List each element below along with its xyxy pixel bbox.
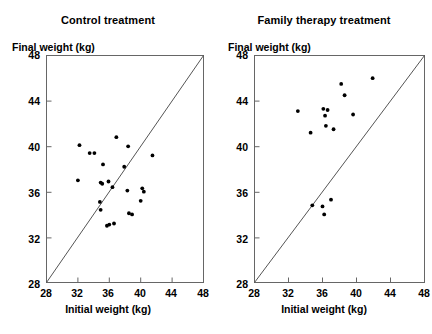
data-point xyxy=(142,190,146,194)
data-point xyxy=(322,213,326,217)
data-point xyxy=(126,144,130,148)
data-point xyxy=(107,180,111,184)
control-plot-area xyxy=(0,0,216,334)
family-plot-area xyxy=(216,0,432,334)
data-point xyxy=(296,109,300,113)
data-point xyxy=(139,199,143,203)
data-point xyxy=(326,108,330,112)
data-point xyxy=(107,223,111,227)
data-point xyxy=(78,143,82,147)
family-data-points xyxy=(296,76,375,216)
data-point xyxy=(329,198,333,202)
scatter-plot-figure: Control treatment Final weight (kg) Init… xyxy=(0,0,432,334)
data-point xyxy=(100,182,104,186)
family-identity-line xyxy=(255,56,425,283)
data-point xyxy=(114,135,118,139)
data-point xyxy=(343,93,347,97)
control-identity-line xyxy=(47,56,204,283)
data-point xyxy=(112,222,116,226)
data-point xyxy=(99,208,103,212)
data-point xyxy=(321,107,325,111)
data-point xyxy=(321,205,325,209)
data-point xyxy=(125,189,129,193)
data-point xyxy=(324,124,328,128)
data-point xyxy=(151,153,155,157)
data-point xyxy=(122,165,126,169)
data-point xyxy=(339,82,343,86)
family-therapy-panel: Family therapy treatment Final weight (k… xyxy=(216,0,432,334)
data-point xyxy=(92,151,96,155)
data-point xyxy=(351,113,355,117)
data-point xyxy=(88,151,92,155)
data-point xyxy=(101,163,105,167)
data-point xyxy=(76,178,80,182)
data-point xyxy=(332,127,336,131)
data-point xyxy=(140,186,144,190)
data-point xyxy=(111,185,115,189)
control-data-points xyxy=(76,135,154,227)
data-point xyxy=(98,200,102,204)
data-point xyxy=(323,114,327,118)
data-point xyxy=(130,213,134,217)
data-point xyxy=(309,131,313,135)
data-point xyxy=(371,76,375,80)
data-point xyxy=(310,203,314,207)
control-panel: Control treatment Final weight (kg) Init… xyxy=(0,0,216,334)
